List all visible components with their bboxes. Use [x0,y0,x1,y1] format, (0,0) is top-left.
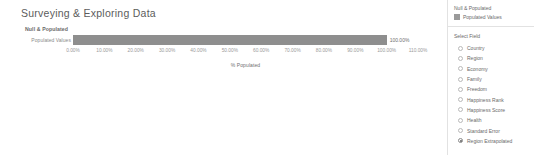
x-axis-tick-label: 80.00% [316,48,332,53]
legend-item-label: Populated Values [463,14,502,20]
legend-item[interactable]: Populated Values [454,14,502,20]
field-radio-item[interactable]: Happiness Score [458,105,534,115]
field-radio-item[interactable]: Family [458,74,534,84]
select-field-radio-group: CountryRegionEconomyFamilyFreedomHappine… [458,43,534,146]
legend-title: Null & Populated [454,5,491,11]
x-axis-tick-label: 10.00% [96,48,112,53]
radio-icon[interactable] [458,66,463,71]
field-radio-item[interactable]: Region [458,53,534,63]
radio-icon[interactable] [458,56,463,61]
bar-row: Populated Values 100.00% [0,35,447,45]
x-axis-tick-label: 30.00% [159,48,175,53]
chart-area: Null & Populated Populated Values 100.00… [0,26,447,86]
field-radio-label: Happiness Rank [467,97,504,103]
field-radio-item[interactable]: Economy [458,64,534,74]
radio-selected-icon[interactable] [458,138,463,143]
chart-panel: Surveying & Exploring Data Null & Popula… [0,0,447,155]
x-axis-tick-label: 0.00% [66,48,80,53]
x-axis-tick-label: 100.00% [377,48,396,53]
x-axis-tick-label: 110.00% [409,48,428,53]
field-radio-label: Region Extrapolated [467,138,512,144]
field-radio-item[interactable]: Standard Error [458,125,534,135]
x-axis-tick-label: 50.00% [222,48,238,53]
field-radio-item[interactable]: Region Extrapolated [458,136,534,146]
field-radio-item[interactable]: Country [458,43,534,53]
field-radio-item[interactable]: Health [458,115,534,125]
x-axis-tick-label: 60.00% [253,48,269,53]
field-radio-label: Family [467,76,482,82]
radio-icon[interactable] [458,118,463,123]
radio-icon[interactable] [458,97,463,102]
legend-box: Null & Populated Populated Values [448,0,534,27]
side-panel: Null & Populated Populated Values Select… [447,0,534,155]
bar-value-label: 100.00% [390,37,410,43]
field-radio-item[interactable]: Happiness Rank [458,94,534,104]
field-radio-label: Happiness Score [467,107,505,113]
field-radio-label: Standard Error [467,128,500,134]
field-radio-item[interactable]: Freedom [458,84,534,94]
chart-series-title: Null & Populated [25,26,68,32]
field-radio-label: Economy [467,66,488,72]
select-field-title: Select Field [454,33,480,39]
x-axis-tick-label: 40.00% [190,48,206,53]
radio-icon[interactable] [458,87,463,92]
plot-area: 100.00% [73,35,418,45]
bar-category-label: Populated Values [25,37,71,43]
radio-icon[interactable] [458,107,463,112]
radio-icon[interactable] [458,46,463,51]
x-axis-ticks: 0.00%10.00%20.00%30.00%40.00%50.00%60.00… [73,48,418,58]
x-axis-tick-label: 70.00% [284,48,300,53]
page-title: Surveying & Exploring Data [21,7,156,19]
field-radio-label: Country [467,45,485,51]
x-axis-title: % Populated [73,62,418,68]
field-radio-label: Health [467,117,481,123]
chart-dashboard: Surveying & Exploring Data Null & Popula… [0,0,534,155]
bar-populated-values[interactable] [73,35,387,45]
legend-swatch-icon [454,14,460,20]
x-axis-tick-label: 20.00% [128,48,144,53]
field-radio-label: Region [467,55,483,61]
field-radio-label: Freedom [467,86,487,92]
radio-icon[interactable] [458,128,463,133]
x-axis-tick-label: 90.00% [347,48,363,53]
radio-icon[interactable] [458,77,463,82]
